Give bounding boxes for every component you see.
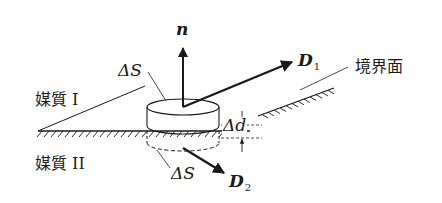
d1-subscript: 1 (314, 61, 320, 72)
d2-label: D2 (229, 173, 251, 190)
bottom-area-label: ΔS (171, 165, 195, 182)
hatch-receding (262, 90, 334, 118)
d1-symbol: D (298, 50, 313, 70)
top-area-label: ΔS (118, 62, 142, 79)
medium-2-label: 媒質 II (35, 156, 85, 172)
thickness-label: Δd (222, 117, 247, 134)
d2-subscript: 2 (245, 182, 251, 193)
bottom-face (147, 143, 219, 151)
d1-vector-arrow (183, 62, 292, 107)
boundary-label: 境界面 (355, 59, 403, 75)
d1-label: D1 (298, 52, 320, 69)
pillbox-diagram: 媒質 I 媒質 II 境界面 n ΔS ΔS Δd D1 D2 (0, 0, 442, 203)
normal-vector-label: n (176, 21, 188, 38)
d2-symbol: D (229, 171, 244, 191)
medium-1-label: 媒質 I (35, 92, 78, 108)
